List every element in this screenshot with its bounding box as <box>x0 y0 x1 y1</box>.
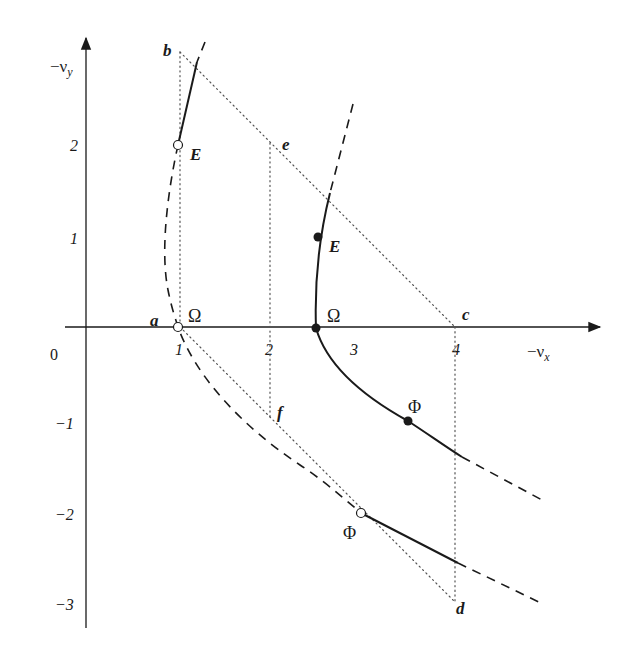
origin-label: 0 <box>50 346 58 363</box>
Omega-filled-filled-marker <box>312 324 321 333</box>
point-label-E: E <box>189 145 201 164</box>
point-label-f: f <box>277 403 285 422</box>
left-branch-dashed-curve <box>165 42 361 513</box>
x-tick-label: 2 <box>265 341 273 358</box>
point-label-c: c <box>462 305 470 324</box>
y-axis-title: −νy <box>50 57 73 79</box>
a-to-d-diagonal-dotted-line <box>180 327 455 602</box>
lower-branch-solid-segment <box>361 513 458 563</box>
y-tick-label: 2 <box>70 137 78 154</box>
right-branch-dashed-bottom <box>462 457 542 500</box>
x-tick-labels: 1234 <box>175 341 460 358</box>
Phi-filled-filled-marker <box>404 417 413 426</box>
x-tick-label: 3 <box>349 341 358 358</box>
diagram-canvas: −νx −νy 0 1234 21−1−2−3 abcdefEEΩΩΦΦ <box>0 0 617 655</box>
x-tick-label: 1 <box>175 341 183 358</box>
x-axis-title: −νx <box>527 342 550 364</box>
point-markers <box>174 141 413 518</box>
right-branch-dashed-top <box>330 104 353 193</box>
E-open-open-marker <box>174 141 183 150</box>
point-label-e: e <box>282 135 290 154</box>
greek-label: Ω <box>327 306 340 326</box>
b-to-c-diagonal-dotted-line <box>180 52 455 327</box>
axes: −νx −νy 0 1234 21−1−2−3 <box>50 38 600 628</box>
greek-label: Ω <box>188 306 201 326</box>
E-filled-filled-marker <box>314 233 323 242</box>
left-branch-solid-segment <box>178 62 197 145</box>
y-tick-label: −3 <box>55 596 74 613</box>
point-labels: abcdefEEΩΩΦΦ <box>150 41 470 618</box>
lower-branch-dashed-segment <box>458 563 543 604</box>
Omega-open-open-marker <box>174 323 183 332</box>
greek-label: Φ <box>408 397 421 417</box>
x-tick-label: 4 <box>452 341 460 358</box>
point-label-E: E <box>328 237 340 256</box>
point-label-a: a <box>150 311 159 330</box>
y-tick-label: −1 <box>55 415 74 432</box>
curves <box>165 42 543 604</box>
greek-label: Φ <box>343 523 356 543</box>
y-tick-label: −2 <box>55 506 74 523</box>
y-tick-labels: 21−1−2−3 <box>55 137 78 613</box>
point-label-b: b <box>163 41 172 60</box>
y-tick-label: 1 <box>70 230 78 247</box>
Phi-open-open-marker <box>357 509 366 518</box>
point-label-d: d <box>456 599 465 618</box>
